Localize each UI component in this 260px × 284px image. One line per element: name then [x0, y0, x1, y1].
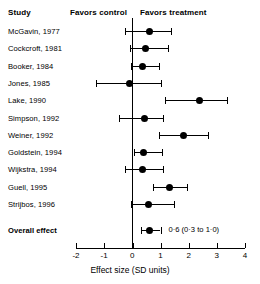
effect-estimate-marker: [145, 201, 152, 208]
axis-tick-label: 0: [122, 251, 142, 260]
effect-estimate-marker: [141, 115, 148, 122]
axis-tick: [161, 243, 162, 248]
confidence-interval-line: [130, 48, 169, 49]
ci-cap-low: [159, 132, 160, 139]
study-label: Wijkstra, 1994: [8, 165, 57, 174]
axis-line: [76, 248, 245, 249]
favors-treatment-label: Favors treatment: [140, 8, 207, 17]
column-header-study: Study: [8, 8, 31, 17]
study-label: Jones, 1985: [8, 79, 50, 88]
ci-cap-low: [119, 115, 120, 122]
study-label: Strijbos, 1996: [8, 200, 55, 209]
axis-tick: [189, 243, 190, 248]
study-label: Cockcroft, 1981: [8, 44, 62, 53]
ci-cap-high: [163, 166, 164, 173]
forest-plot: Study Favors control Favors treatment Mc…: [0, 0, 260, 284]
ci-cap-low: [125, 166, 126, 173]
axis-tick: [104, 243, 105, 248]
axis-tick: [245, 243, 246, 248]
axis-tick: [132, 243, 133, 248]
effect-estimate-marker: [140, 149, 147, 156]
axis-tick-label: -2: [66, 251, 86, 260]
favors-control-label: Favors control: [70, 8, 127, 17]
ci-cap-high: [187, 184, 188, 191]
ci-cap-high: [163, 115, 164, 122]
axis-tick-label: -1: [94, 251, 114, 260]
ci-cap-high: [162, 149, 163, 156]
effect-estimate-marker: [166, 184, 173, 191]
study-label: Booker, 1984: [8, 62, 53, 71]
ci-cap-low: [153, 184, 154, 191]
overall-effect-marker: [146, 227, 153, 234]
study-label: McGavin, 1977: [8, 27, 60, 36]
axis-tick-label: 2: [179, 251, 199, 260]
effect-estimate-marker: [139, 166, 146, 173]
effect-estimate-marker: [146, 28, 153, 35]
overall-effect-value: 0·6 (0·3 to 1·0): [169, 225, 220, 234]
study-label: Lake, 1990: [8, 96, 46, 105]
ci-cap-low: [131, 201, 132, 208]
study-label: Goldstein, 1994: [8, 148, 62, 157]
ci-cap-high: [227, 97, 228, 104]
ci-cap-low: [96, 80, 97, 87]
study-label: Guell, 1995: [8, 183, 47, 192]
effect-estimate-marker: [180, 132, 187, 139]
axis-tick-label: 3: [207, 251, 227, 260]
ci-cap-high: [161, 227, 162, 234]
ci-cap-low: [141, 227, 142, 234]
ci-cap-high: [208, 132, 209, 139]
axis-tick-label: 1: [151, 251, 171, 260]
ci-cap-low: [134, 149, 135, 156]
axis-tick: [76, 243, 77, 248]
study-label: Simpson, 1992: [8, 114, 59, 123]
effect-estimate-marker: [142, 45, 149, 52]
ci-cap-high: [174, 201, 175, 208]
confidence-interval-line: [131, 204, 174, 205]
effect-estimate-marker: [139, 63, 146, 70]
ci-cap-low: [165, 97, 166, 104]
confidence-interval-line: [134, 152, 162, 153]
axis-tick-label: 4: [235, 251, 255, 260]
null-effect-line: [132, 18, 133, 248]
ci-cap-high: [161, 80, 162, 87]
overall-effect-label: Overall effect: [8, 226, 57, 235]
ci-cap-low: [125, 28, 126, 35]
study-label: Weiner, 1992: [8, 131, 53, 140]
ci-cap-high: [168, 45, 169, 52]
ci-cap-high: [159, 63, 160, 70]
axis-tick: [217, 243, 218, 248]
effect-estimate-marker: [126, 80, 133, 87]
ci-cap-high: [171, 28, 172, 35]
ci-cap-low: [130, 45, 131, 52]
x-axis-label: Effect size (SD units): [0, 265, 260, 275]
effect-estimate-marker: [196, 97, 203, 104]
ci-cap-low: [131, 63, 132, 70]
